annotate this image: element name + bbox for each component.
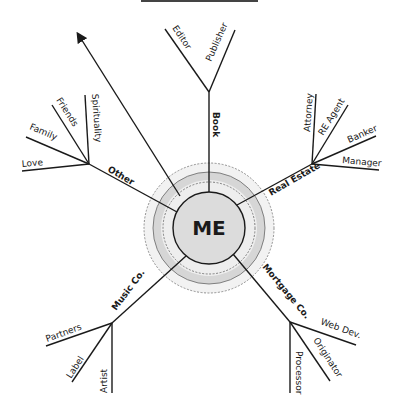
branch-label-music: Music Co. (110, 267, 147, 312)
leaf-web-dev: Web Dev. (319, 316, 362, 340)
leaf-publisher: Publisher (204, 21, 230, 63)
leaf-originator: Originator (311, 336, 344, 380)
branch-label-real-estate: Real Estate (267, 160, 322, 197)
leaf-spirituality: Spirituality (90, 93, 103, 143)
leaf-manager: Manager (342, 155, 382, 168)
top-bar (141, 0, 258, 2)
branch-music: Music Co. Partners Label Artist (44, 256, 186, 393)
branch-label-mortgage: Mortgage Co. (260, 262, 312, 321)
leaf-processor: Processor (294, 351, 304, 395)
leaf-friends: Friends (54, 96, 80, 129)
leaf-editor: Editor (170, 24, 193, 52)
branch-label-book: Book (211, 112, 221, 138)
leaf-artist: Artist (99, 368, 109, 393)
leaf-attorney: Attorney (302, 92, 315, 132)
center-label: ME (192, 216, 226, 240)
leaf-love: Love (21, 157, 43, 169)
mind-map: Book Editor Publisher Real Estate Attorn… (0, 0, 399, 415)
